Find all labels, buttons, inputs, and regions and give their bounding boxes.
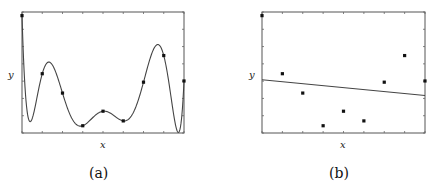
data-point	[20, 14, 23, 17]
caption-a: (a)	[89, 165, 108, 181]
caption-b: (b)	[329, 165, 349, 181]
data-point	[61, 91, 64, 94]
data-point	[81, 124, 84, 127]
ticks-a	[22, 12, 184, 133]
x-axis-label-a: x	[100, 139, 106, 150]
data-points-b	[260, 14, 426, 127]
ticks-b	[262, 12, 425, 133]
data-point	[122, 119, 125, 122]
figure: x y (a) x y (b)	[0, 0, 437, 187]
panel-b: x y (b)	[248, 12, 427, 181]
data-point	[142, 81, 145, 84]
interpolating-curve	[22, 16, 184, 133]
y-axis-label-a: y	[7, 69, 14, 80]
linear-fit-line	[262, 80, 425, 96]
data-point	[41, 72, 44, 75]
x-axis-label-b: x	[340, 139, 346, 150]
data-points-a	[20, 14, 185, 127]
data-point	[383, 81, 386, 84]
data-point	[260, 14, 263, 17]
data-point	[281, 72, 284, 75]
plot-frame-b	[262, 12, 425, 133]
panel-a: x y (a)	[7, 12, 186, 181]
y-axis-label-b: y	[248, 69, 255, 80]
data-point	[423, 79, 426, 82]
data-point	[301, 91, 304, 94]
data-point	[403, 54, 406, 57]
data-point	[162, 54, 165, 57]
data-point	[362, 119, 365, 122]
data-point	[342, 110, 345, 113]
plot-frame-a	[22, 12, 184, 133]
data-point	[322, 124, 325, 127]
data-point	[101, 110, 104, 113]
data-point	[182, 79, 185, 82]
